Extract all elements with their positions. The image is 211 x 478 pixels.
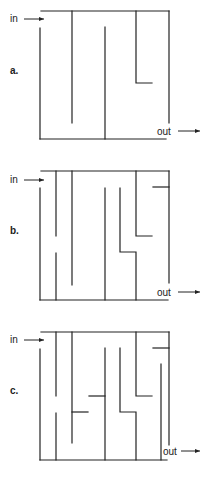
exit-label: out	[163, 446, 177, 457]
entry-arrow-icon	[24, 338, 44, 342]
entry-arrow-icon	[24, 178, 44, 182]
maze-figure: in a. out in b.	[0, 0, 211, 478]
entry-arrow-icon	[24, 17, 44, 21]
exit-label: out	[157, 126, 171, 137]
maze-label: b.	[10, 225, 19, 236]
maze-a: in a. out	[10, 11, 200, 139]
exit-arrow-icon	[181, 449, 200, 453]
maze-b: in b. out	[10, 171, 200, 300]
maze-walls	[40, 11, 169, 139]
maze-walls	[40, 171, 169, 300]
exit-arrow-icon	[178, 290, 200, 294]
maze-c: in c. out	[10, 332, 200, 460]
maze-label: a.	[10, 65, 19, 76]
maze-walls	[40, 332, 169, 460]
exit-arrow-icon	[178, 129, 200, 133]
entry-label: in	[10, 174, 18, 185]
maze-label: c.	[10, 385, 19, 396]
entry-label: in	[10, 13, 18, 24]
exit-label: out	[157, 287, 171, 298]
entry-label: in	[10, 334, 18, 345]
